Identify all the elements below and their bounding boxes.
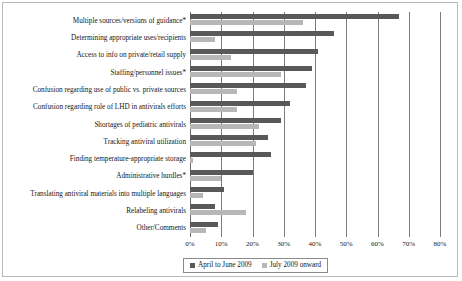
bar-secondary xyxy=(190,141,256,146)
category-label: Finding temperature-appropriate storage xyxy=(70,155,186,163)
bar-primary xyxy=(190,14,399,19)
bar-secondary xyxy=(190,228,206,233)
bar-row xyxy=(190,133,440,150)
bar-row xyxy=(190,116,440,133)
bar-secondary xyxy=(190,210,246,215)
plot-area xyxy=(190,12,440,237)
legend-entry-primary[interactable]: April to June 2009 xyxy=(190,260,252,270)
x-tick-label: 40% xyxy=(309,239,322,249)
bar-secondary xyxy=(190,124,259,129)
value-axis-ticks: 0%10%20%30%40%50%60%70%80% xyxy=(190,239,440,251)
bar-primary xyxy=(190,66,312,71)
bar-secondary xyxy=(190,20,303,25)
bar-row xyxy=(190,12,440,29)
bar-row xyxy=(190,220,440,237)
bar-secondary xyxy=(190,158,193,163)
x-tick-label: 80% xyxy=(434,239,447,249)
legend-swatch-secondary xyxy=(262,263,267,268)
bar-primary xyxy=(190,135,268,140)
category-label: Shortages of pediatric antivirals xyxy=(94,121,186,129)
category-label: Multiple sources/versions of guidance* xyxy=(73,17,186,25)
category-label: Access to info on private/retail supply xyxy=(76,51,186,59)
bar-primary xyxy=(190,204,215,209)
bar-secondary xyxy=(190,72,281,77)
bar-secondary xyxy=(190,193,203,198)
bar-secondary xyxy=(190,107,237,112)
category-label: Staffing/personnel issues* xyxy=(110,69,186,77)
category-label: Tracking antiviral utilization xyxy=(104,138,186,146)
bar-row xyxy=(190,202,440,219)
category-label: Determining appropriate uses/recipients xyxy=(71,34,186,42)
bar-primary xyxy=(190,31,334,36)
bar-secondary xyxy=(190,37,215,42)
bar-row xyxy=(190,168,440,185)
legend-label-secondary: July 2009 onward xyxy=(270,260,322,270)
bars-layer xyxy=(190,12,440,237)
x-tick-label: 70% xyxy=(402,239,415,249)
bar-primary xyxy=(190,49,318,54)
bar-row xyxy=(190,81,440,98)
category-label: Administrative hurdles* xyxy=(116,172,186,180)
chart-legend: April to June 2009 July 2009 onward xyxy=(183,258,328,273)
x-tick-label: 0% xyxy=(185,239,194,249)
bar-secondary xyxy=(190,55,231,60)
bar-row xyxy=(190,185,440,202)
bar-row xyxy=(190,64,440,81)
x-tick-label: 30% xyxy=(277,239,290,249)
category-label: Other/Comments xyxy=(136,224,186,232)
category-label: Confusion regarding use of public vs. pr… xyxy=(33,86,186,94)
bar-primary xyxy=(190,170,253,175)
bar-chart-figure: Multiple sources/versions of guidance*De… xyxy=(0,0,462,281)
bar-secondary xyxy=(190,89,237,94)
x-tick-label: 60% xyxy=(371,239,384,249)
bar-primary xyxy=(190,101,290,106)
legend-entry-secondary[interactable]: July 2009 onward xyxy=(262,260,322,270)
bar-primary xyxy=(190,83,306,88)
category-label: Relabeling antivirals xyxy=(126,207,186,215)
legend-label-primary: April to June 2009 xyxy=(198,260,252,270)
bar-row xyxy=(190,47,440,64)
bar-primary xyxy=(190,222,218,227)
bar-primary xyxy=(190,187,224,192)
bar-row xyxy=(190,99,440,116)
x-tick-label: 10% xyxy=(215,239,228,249)
bar-row xyxy=(190,29,440,46)
legend-swatch-primary xyxy=(190,263,195,268)
x-tick-label: 50% xyxy=(340,239,353,249)
bar-primary xyxy=(190,118,281,123)
bar-row xyxy=(190,150,440,167)
category-label: Confusion regarding role of LHD in antiv… xyxy=(33,103,186,111)
x-tick-label: 20% xyxy=(246,239,259,249)
category-label: Translating antiviral materials into mul… xyxy=(30,190,186,198)
bar-secondary xyxy=(190,176,221,181)
bar-primary xyxy=(190,152,271,157)
category-axis-labels: Multiple sources/versions of guidance*De… xyxy=(0,12,188,237)
